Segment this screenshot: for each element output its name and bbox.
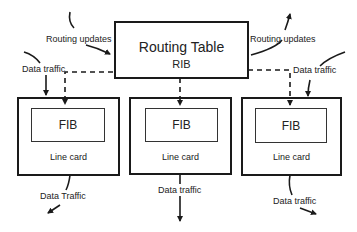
data-traffic-out-left-curve: [66, 175, 70, 190]
line-card-right: FIB Line card: [241, 97, 342, 176]
data-traffic-out-left-arrow: [48, 205, 60, 213]
routing-updates-left-curve-top: [70, 12, 75, 28]
data-traffic-out-right-arrow: [300, 208, 316, 214]
data-traffic-left-curve-top: [24, 52, 40, 63]
data-traffic-out-right-label: Data traffic: [273, 196, 316, 206]
rib-label: RIB: [116, 58, 247, 70]
data-traffic-right-curve-top: [320, 52, 345, 66]
fib-label: FIB: [172, 118, 191, 132]
line-card-label: Line card: [131, 152, 230, 162]
fib-box-middle: FIB: [145, 108, 218, 142]
routing-table-box: Routing Table RIB: [114, 21, 249, 79]
data-traffic-out-right-curve: [289, 175, 292, 195]
fib-label: FIB: [282, 119, 301, 133]
line-card-label: Line card: [19, 152, 118, 162]
data-traffic-in-left-label: Data traffic: [22, 64, 65, 74]
line-card-middle: FIB Line card: [129, 97, 232, 175]
line-card-left: FIB Line card: [17, 97, 120, 176]
routing-updates-left-arrow: [86, 45, 110, 54]
line-card-label: Line card: [243, 152, 340, 162]
routing-updates-right-label: Routing updates: [250, 34, 316, 44]
routing-updates-right-arrow: [285, 14, 290, 30]
routing-updates-left-label: Routing updates: [46, 34, 112, 44]
data-traffic-right-arrow: [308, 80, 310, 96]
router-architecture-diagram: Routing Table RIB FIB Line card FIB Line…: [0, 0, 357, 232]
fib-box-right: FIB: [255, 108, 327, 143]
data-traffic-in-right-label: Data traffic: [293, 65, 336, 75]
fib-label: FIB: [59, 118, 78, 132]
data-traffic-out-middle-label: Data traffic: [158, 185, 201, 195]
data-traffic-out-left-label: Data Traffic: [40, 191, 86, 201]
fib-box-left: FIB: [31, 108, 105, 142]
routing-table-title: Routing Table: [116, 39, 247, 55]
